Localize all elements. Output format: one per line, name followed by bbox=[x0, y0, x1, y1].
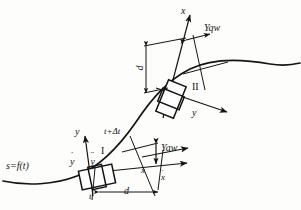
axis-y-upper-label: y bbox=[192, 108, 196, 118]
figure-canvas bbox=[0, 0, 301, 210]
vehicle-body-two bbox=[154, 79, 188, 119]
y-ddot-accent: ¨ bbox=[90, 152, 94, 162]
y-ddot-label: ¨ y bbox=[90, 157, 94, 167]
station-cross-tick bbox=[122, 143, 158, 152]
y-dot-label: ˙ y bbox=[70, 157, 74, 167]
vehicle-body-one bbox=[78, 162, 116, 192]
y-dot-accent: ˙ bbox=[70, 152, 74, 162]
trajectory-curve bbox=[3, 60, 300, 184]
axis-y-lower-label: y bbox=[75, 127, 79, 137]
dimension-d-upper-label: d bbox=[135, 66, 145, 71]
position-two-roman-label: II bbox=[192, 82, 199, 92]
time-start-label: t bbox=[89, 192, 92, 201]
position-one-roman-label: I bbox=[101, 146, 104, 156]
dimension-d-lower-label: d bbox=[124, 186, 129, 196]
x-dot-label: ˙ x bbox=[161, 173, 165, 182]
x-dot-accent: ˙ bbox=[161, 169, 165, 178]
path-function-label: s=f(t) bbox=[6, 161, 29, 171]
axis-x-upper-label: x bbox=[181, 6, 185, 16]
yaw-upper-label: Yqw bbox=[204, 23, 220, 33]
yaw-indicator-upper bbox=[186, 34, 210, 40]
kinematics-diagram: s=f(t) y I II t t+Δt Yaw Yqw x y x ˙ x ˙… bbox=[0, 0, 301, 210]
leader-upper-top bbox=[144, 38, 186, 46]
time-step-label: t+Δt bbox=[104, 127, 120, 136]
axis-x-lower-label: x bbox=[141, 166, 145, 175]
yaw-lower-label: Yaw bbox=[161, 143, 177, 153]
